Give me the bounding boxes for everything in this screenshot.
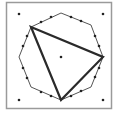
corner-dot — [18, 13, 21, 16]
edge-dot — [50, 16, 53, 19]
diagram-canvas — [0, 0, 113, 118]
edge-dot — [94, 35, 97, 38]
corner-dot — [102, 99, 105, 102]
edge-dot — [22, 67, 25, 70]
edge-dot — [98, 67, 101, 70]
edge-dot — [40, 91, 43, 94]
edge-dot — [26, 77, 29, 80]
edge-dot — [26, 35, 29, 38]
edge-dot — [22, 45, 25, 48]
inscribed-triangle — [31, 27, 103, 100]
edge-dot — [80, 90, 83, 93]
edge-dot — [50, 95, 53, 98]
center-dot — [60, 56, 63, 59]
edge-dot — [70, 95, 73, 98]
corner-dot — [102, 13, 105, 16]
edge-dot — [80, 20, 83, 23]
edge-dot — [94, 76, 97, 79]
edge-dot — [98, 45, 101, 48]
corner-dot — [18, 99, 21, 102]
edge-dot — [40, 21, 43, 24]
edge-dot — [70, 16, 73, 19]
